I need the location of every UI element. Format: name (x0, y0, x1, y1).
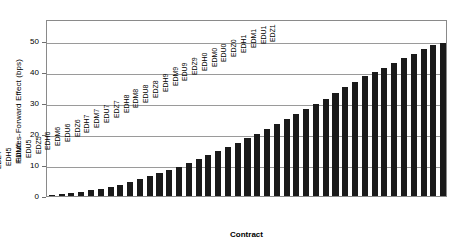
bar (342, 87, 348, 196)
bar (421, 49, 427, 196)
bar (108, 187, 114, 196)
bar (117, 185, 123, 196)
y-tick-label: 30 (13, 99, 39, 108)
bar (391, 63, 397, 196)
bar (332, 93, 338, 196)
bar (323, 99, 329, 197)
chart-figure: Futures-Forward Effect (bps) 01020304050… (0, 0, 462, 251)
bar (313, 104, 319, 196)
bar (244, 138, 250, 196)
bar (156, 173, 162, 196)
bar (440, 43, 446, 196)
bar (352, 82, 358, 196)
bar (166, 170, 172, 196)
bar (59, 194, 65, 196)
bar (430, 45, 436, 196)
bar (254, 134, 260, 196)
bar (372, 72, 378, 196)
y-tick-mark (42, 197, 46, 198)
plot-area: EDZ1EDH2EDM2EDU2EDZ2EDH3EDM3EDU3EDZ3EDH4… (46, 20, 447, 197)
bar (401, 58, 407, 196)
bar-category-label: EDZ1 (269, 24, 446, 42)
y-tick-label: 40 (13, 68, 39, 77)
bar (303, 109, 309, 196)
bar (137, 179, 143, 196)
bar (411, 54, 417, 196)
bar (78, 192, 84, 196)
bar (98, 189, 104, 196)
bar (274, 124, 280, 196)
bar (186, 163, 192, 196)
bar (215, 151, 221, 196)
bar (147, 176, 153, 196)
bar (293, 114, 299, 196)
bar (127, 182, 133, 196)
bar (68, 193, 74, 196)
bar (196, 159, 202, 196)
bar (49, 195, 55, 196)
y-tick-label: 50 (13, 37, 39, 46)
bar (235, 143, 241, 196)
bar (225, 147, 231, 196)
bar (284, 119, 290, 196)
bar (381, 68, 387, 196)
bar (264, 129, 270, 196)
bar (176, 167, 182, 196)
x-axis-title: Contract (46, 230, 447, 239)
bar (88, 190, 94, 196)
bar (362, 76, 368, 196)
bar (205, 155, 211, 196)
